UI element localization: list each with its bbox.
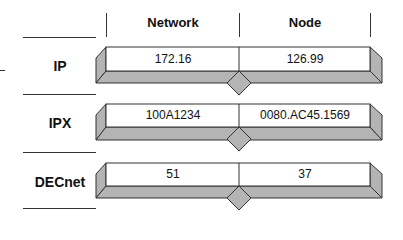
protocol-label-ip: IP xyxy=(20,58,100,74)
protocol-label-ipx: IPX xyxy=(20,115,100,131)
ipx-network-value: 100A1234 xyxy=(107,108,239,122)
ipx-node-value: 0080.AC45.1569 xyxy=(240,108,370,122)
decnet-network-value: 51 xyxy=(107,167,239,181)
ip-network-value: 172.16 xyxy=(107,52,239,66)
ip-node-value: 126.99 xyxy=(240,52,370,66)
protocol-label-decnet: DECnet xyxy=(20,174,100,190)
decnet-node-value: 37 xyxy=(240,167,370,181)
